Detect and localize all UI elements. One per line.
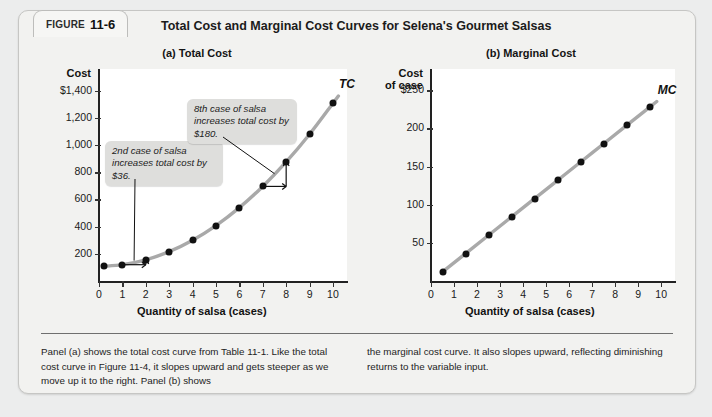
- data-point: [554, 177, 561, 184]
- panel-b-x-axis-label: Quantity of salsa (cases): [465, 305, 595, 317]
- caption-right: the marginal cost curve. It also slopes …: [367, 345, 667, 374]
- panel-total-cost: (a) Total Cost Cost Quantity of salsa (c…: [27, 43, 367, 325]
- figure-title: Total Cost and Marginal Cost Curves for …: [161, 19, 551, 33]
- data-point: [600, 140, 607, 147]
- panels-container: (a) Total Cost Cost Quantity of salsa (c…: [19, 43, 695, 325]
- panel-b-y-tick-label: 100: [369, 198, 424, 210]
- data-point: [623, 122, 630, 129]
- annotation-leader-line: [27, 43, 367, 325]
- data-point: [531, 195, 538, 202]
- data-point: [485, 232, 492, 239]
- figure-tab-label: FIGURE: [46, 19, 85, 30]
- panel-b-curve: [431, 69, 712, 301]
- figure-card: FIGURE 11-6 Total Cost and Marginal Cost…: [18, 10, 696, 394]
- data-point: [646, 104, 653, 111]
- data-point: [577, 159, 584, 166]
- figure-tab: FIGURE 11-6: [33, 10, 128, 37]
- panel-b-y-tick-label: 150: [369, 160, 424, 172]
- panel-b-y-axis-label-line1: Cost: [367, 67, 423, 79]
- caption-divider: [41, 333, 673, 334]
- data-point: [439, 268, 446, 275]
- data-point: [462, 250, 469, 257]
- data-point: [508, 213, 515, 220]
- caption-left: Panel (a) shows the total cost curve fro…: [41, 345, 337, 389]
- panel-b-title: (b) Marginal Cost: [367, 47, 695, 59]
- panel-b-series-label: MC: [658, 83, 677, 97]
- panel-marginal-cost: (b) Marginal Cost Costof case Quantity o…: [367, 43, 695, 325]
- panel-b-y-tick-label: $250: [369, 83, 424, 95]
- figure-tab-number: 11-6: [90, 17, 115, 32]
- panel-b-y-tick-label: 50: [369, 236, 424, 248]
- panel-b-y-tick-label: 200: [369, 121, 424, 133]
